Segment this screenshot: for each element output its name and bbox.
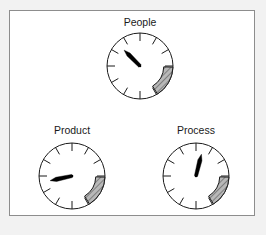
gauge-process: Process	[163, 124, 229, 209]
gauge-product: Product	[39, 124, 105, 209]
gauge-people: People	[107, 16, 173, 99]
gauge-process-hub	[195, 175, 198, 178]
figure-root: People Product Process	[0, 0, 266, 235]
gauge-product-label: Product	[54, 124, 90, 136]
gauge-product-hub	[71, 175, 74, 178]
gauge-canvas: People Product Process	[0, 0, 266, 235]
gauge-process-label: Process	[177, 124, 215, 136]
gauge-people-hub	[139, 65, 142, 68]
gauge-people-label: People	[124, 16, 157, 28]
